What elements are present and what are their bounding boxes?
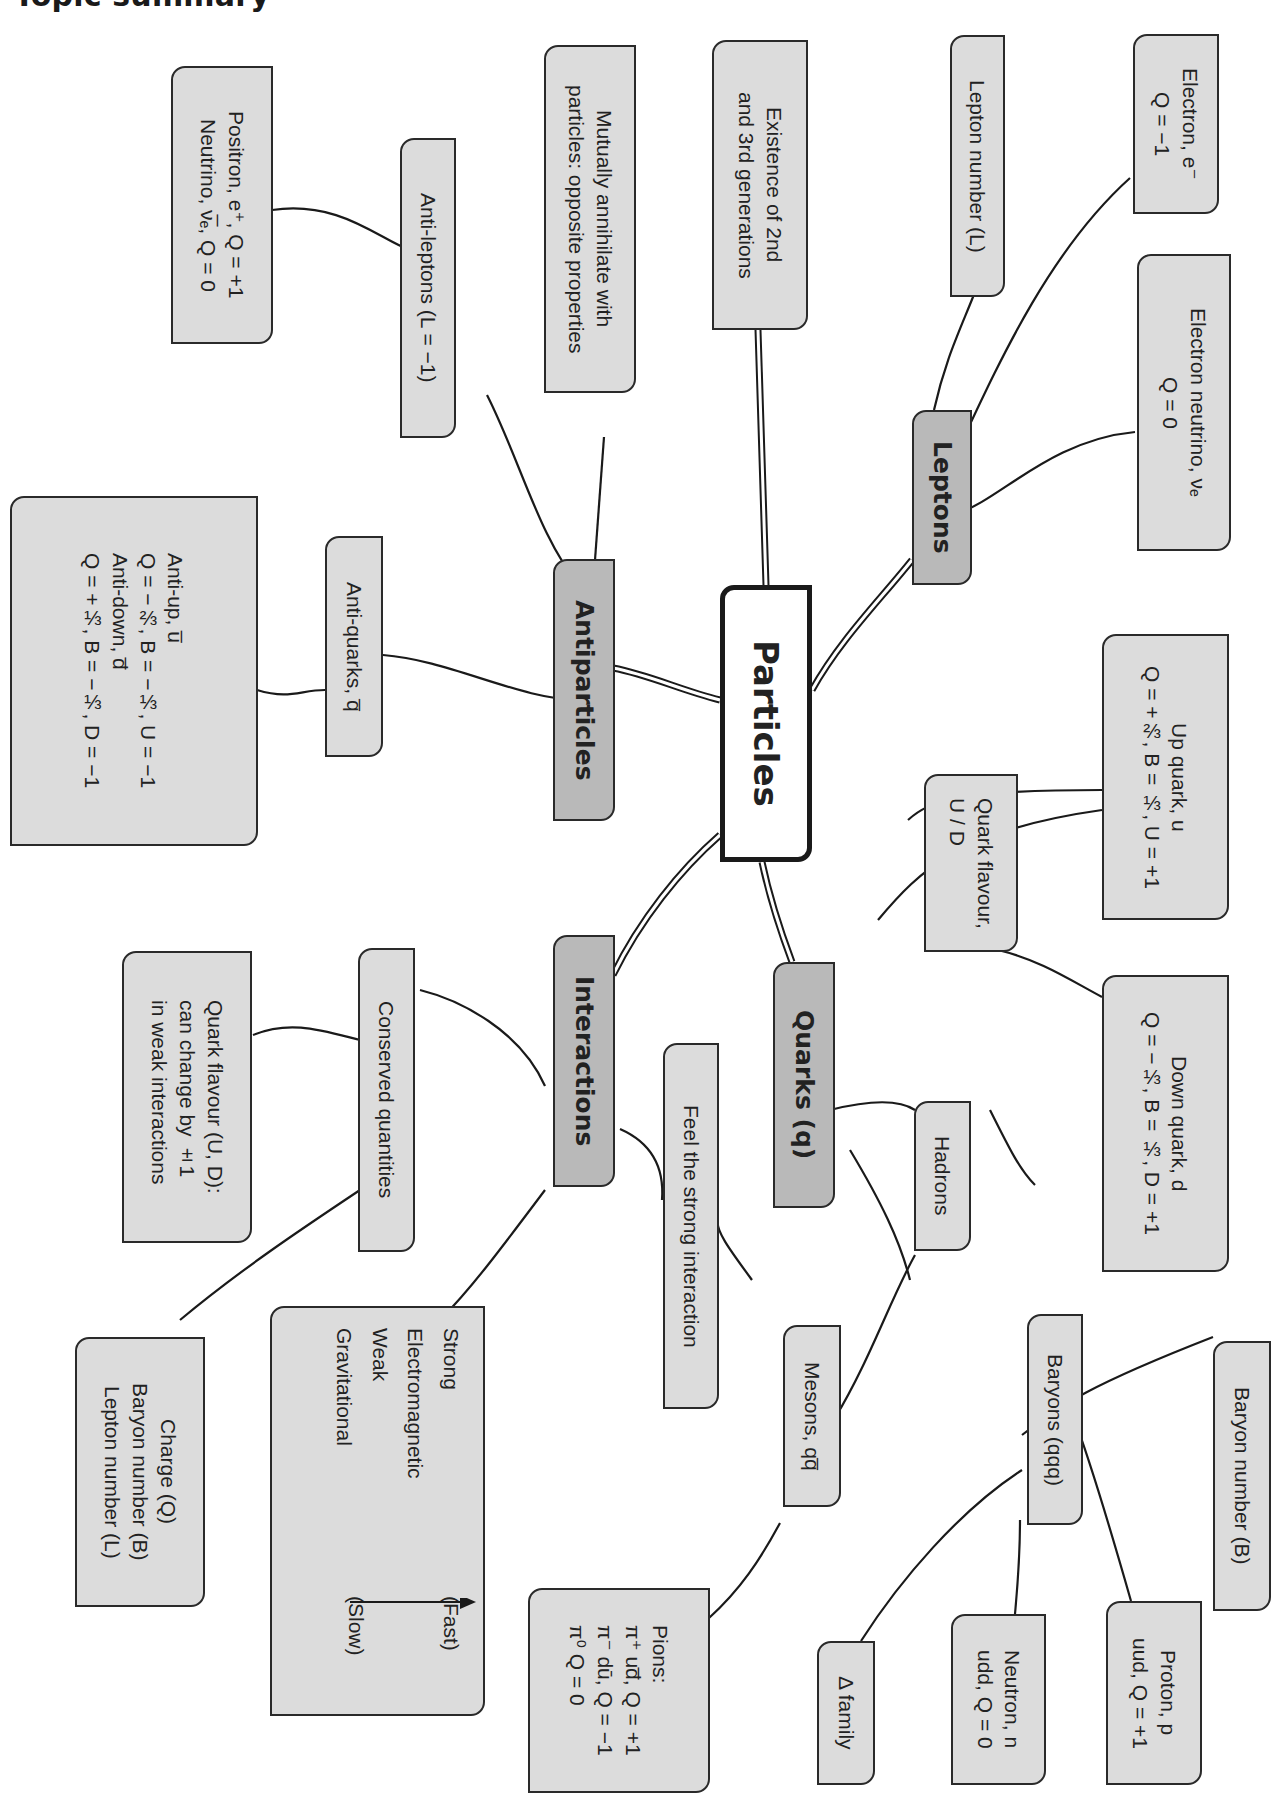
- node-antiquarks[interactable]: Anti-quarks, q̅: [325, 536, 383, 757]
- delta-family-text: Δ family: [832, 1676, 860, 1750]
- hadrons-text: Hadrons: [929, 1136, 957, 1215]
- node-lepton-number[interactable]: Lepton number (L): [950, 35, 1005, 297]
- electron-text: Electron, e⁻ Q = −1: [1148, 68, 1203, 179]
- mesons-text: Mesons, qq̅: [798, 1362, 826, 1471]
- branch-interactions[interactable]: Interactions: [553, 935, 615, 1187]
- node-conserved-list[interactable]: Charge (Q) Baryon number (B) Lepton numb…: [75, 1337, 205, 1607]
- electron-neutrino-text: Electron neutrino, νₑ Q = 0: [1156, 308, 1211, 497]
- node-generations[interactable]: Existence of 2nd and 3rd generations: [712, 40, 808, 330]
- node-baryons[interactable]: Baryons (qqq): [1027, 1314, 1083, 1525]
- quark-flavour-text: Quark flavour, U / D: [943, 798, 998, 929]
- node-delta-family[interactable]: Δ family: [817, 1641, 875, 1785]
- node-down-quark[interactable]: Down quark, d Q = −⅓, B = ⅓, D = +1: [1102, 975, 1229, 1272]
- generations-text: Existence of 2nd and 3rd generations: [732, 92, 787, 279]
- root-node-particles[interactable]: Particles: [720, 585, 812, 862]
- node-annihilate[interactable]: Mutually annihilate with particles: oppo…: [544, 45, 636, 393]
- node-quark-flavour[interactable]: Quark flavour, U / D: [924, 774, 1018, 952]
- node-electron-neutrino[interactable]: Electron neutrino, νₑ Q = 0: [1137, 254, 1231, 551]
- antiquark-details-text: Anti-up, u̅ Q = −⅔, B = −⅓, U = −1 Anti-…: [79, 553, 190, 788]
- branch-quarks-label: Quarks (q): [788, 1010, 821, 1159]
- branch-quarks[interactable]: Quarks (q): [773, 962, 835, 1208]
- branch-leptons-label: Leptons: [926, 441, 959, 554]
- strong-interaction-text: Feel the strong interaction: [677, 1105, 705, 1348]
- baryons-text: Baryons (qqq): [1041, 1354, 1069, 1486]
- root-label: Particles: [744, 640, 789, 807]
- branch-antiparticles-label: Antiparticles: [568, 600, 601, 781]
- node-antileptons[interactable]: Anti-leptons (L = −1): [400, 138, 456, 438]
- node-conserved-quantities[interactable]: Conserved quantities: [358, 948, 415, 1252]
- node-pions[interactable]: Pions: π⁺ ud̅, Q = +1 π⁻ dū, Q = −1 π⁰ Q…: [528, 1588, 710, 1793]
- conserved-list-text: Charge (Q) Baryon number (B) Lepton numb…: [98, 1383, 181, 1560]
- node-antiquark-details[interactable]: Anti-up, u̅ Q = −⅔, B = −⅓, U = −1 Anti-…: [10, 496, 258, 846]
- antiquarks-text: Anti-quarks, q̅: [340, 582, 368, 712]
- up-quark-text: Up quark, u Q = +⅔, B = ⅓, U = +1: [1138, 666, 1193, 889]
- antileptons-text: Anti-leptons (L = −1): [414, 193, 442, 383]
- neutron-text: Neutron, n udd, Q = 0: [971, 1650, 1026, 1749]
- force-electromagnetic: Electromagnetic: [402, 1328, 430, 1694]
- root-to-interactions-link: [613, 835, 720, 975]
- node-neutron[interactable]: Neutron, n udd, Q = 0: [951, 1614, 1046, 1785]
- baryon-number-text: Baryon number (B): [1228, 1387, 1256, 1564]
- node-mesons[interactable]: Mesons, qq̅: [783, 1325, 841, 1507]
- proton-text: Proton, p uud, Q = +1: [1126, 1638, 1181, 1749]
- branch-antiparticles[interactable]: Antiparticles: [553, 559, 615, 821]
- speed-arrow-icon: [342, 1598, 482, 1618]
- down-quark-text: Down quark, d Q = −⅓, B = ⅓, D = +1: [1138, 1012, 1193, 1235]
- node-flavour-change[interactable]: Quark flavour (U, D): can change by ±1 i…: [122, 951, 252, 1243]
- root-to-generations-link: [758, 330, 766, 585]
- positron-neutrino-text: Positron, e⁺, Q = +1 Neutrino, ν̅ₑ, Q = …: [194, 111, 249, 298]
- conserved-quantities-text: Conserved quantities: [373, 1001, 401, 1198]
- node-proton[interactable]: Proton, p uud, Q = +1: [1106, 1601, 1202, 1785]
- pions-text: Pions: π⁺ ud̅, Q = +1 π⁻ dū, Q = −1 π⁰ Q…: [564, 1625, 675, 1756]
- branch-leptons[interactable]: Leptons: [912, 410, 972, 585]
- node-forces[interactable]: Strong Electromagnetic Weak Gravitationa…: [270, 1306, 485, 1716]
- lepton-number-text: Lepton number (L): [964, 80, 992, 253]
- node-hadrons[interactable]: Hadrons: [914, 1101, 971, 1251]
- branch-interactions-label: Interactions: [568, 976, 601, 1146]
- node-positron-neutrino[interactable]: Positron, e⁺, Q = +1 Neutrino, ν̅ₑ, Q = …: [171, 66, 273, 344]
- root-to-antiparticles-link: [613, 668, 720, 700]
- root-to-leptons-link: [812, 560, 912, 690]
- node-up-quark[interactable]: Up quark, u Q = +⅔, B = ⅓, U = +1: [1102, 634, 1229, 920]
- node-baryon-number[interactable]: Baryon number (B): [1213, 1341, 1271, 1611]
- flavour-change-text: Quark flavour (U, D): can change by ±1 i…: [145, 1000, 228, 1194]
- force-weak: Weak: [366, 1328, 394, 1694]
- node-electron[interactable]: Electron, e⁻ Q = −1: [1133, 34, 1219, 214]
- root-to-quarks-link: [762, 862, 792, 962]
- node-strong-interaction[interactable]: Feel the strong interaction: [663, 1043, 719, 1409]
- annihilate-text: Mutually annihilate with particles: oppo…: [562, 85, 617, 353]
